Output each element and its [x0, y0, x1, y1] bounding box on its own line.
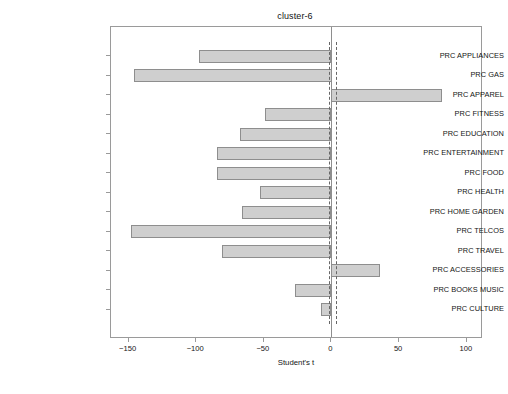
y-tick — [106, 55, 110, 56]
x-tick-label: −150 — [119, 344, 136, 353]
significance-threshold-positive — [336, 42, 337, 324]
zero-line — [331, 27, 332, 337]
y-axis-label-prc-health: PRC HEALTH — [400, 187, 504, 196]
x-tick-label: −100 — [187, 344, 204, 353]
y-axis-label-prc-entertainment: PRC ENTERTAINMENT — [400, 148, 504, 157]
y-axis-label-prc-culture: PRC CULTURE — [400, 304, 504, 313]
y-axis-label-prc-accessories: PRC ACCESSORIES — [400, 265, 504, 274]
y-axis-label-prc-books-music: PRC BOOKS MUSIC — [400, 285, 504, 294]
x-axis-label: Student's t — [110, 358, 482, 367]
y-axis-label-prc-food: PRC FOOD — [400, 168, 504, 177]
y-tick — [106, 211, 110, 212]
y-tick — [106, 289, 110, 290]
y-axis-label-prc-education: PRC EDUCATION — [400, 129, 504, 138]
y-tick — [106, 250, 110, 251]
y-axis-label-prc-fitness: PRC FITNESS — [400, 109, 504, 118]
significance-threshold-negative — [329, 42, 330, 324]
x-tick — [263, 338, 264, 342]
y-axis-label-prc-travel: PRC TRAVEL — [400, 246, 504, 255]
x-tick — [128, 338, 129, 342]
y-tick — [106, 133, 110, 134]
chart-title-text: cluster-6 — [277, 11, 312, 21]
x-tick-label: 0 — [328, 344, 332, 353]
y-tick — [106, 172, 110, 173]
y-axis-label-prc-telcos: PRC TELCOS — [400, 226, 504, 235]
chart-title: cluster-6 — [0, 11, 508, 21]
y-axis-label-prc-home-garden: PRC HOME GARDEN — [400, 207, 504, 216]
x-tick-label: 100 — [459, 344, 472, 353]
y-tick — [106, 270, 110, 271]
y-tick — [106, 231, 110, 232]
chart-container: cluster-6 PRC APPLIANCESPRC GASPRC APPAR… — [0, 0, 508, 394]
x-tick-label: 50 — [394, 344, 402, 353]
y-tick — [106, 309, 110, 310]
y-tick — [106, 75, 110, 76]
y-axis-label-prc-gas: PRC GAS — [400, 70, 504, 79]
y-tick — [106, 114, 110, 115]
y-tick — [106, 153, 110, 154]
y-tick — [106, 192, 110, 193]
y-axis-label-prc-apparel: PRC APPAREL — [400, 90, 504, 99]
x-tick-label: −50 — [256, 344, 269, 353]
x-tick — [195, 338, 196, 342]
x-tick — [330, 338, 331, 342]
y-axis-label-prc-appliances: PRC APPLIANCES — [400, 51, 504, 60]
x-tick — [466, 338, 467, 342]
y-tick — [106, 94, 110, 95]
x-tick — [398, 338, 399, 342]
